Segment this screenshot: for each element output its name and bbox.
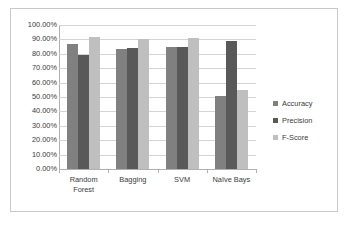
bar-accuracy [215,96,226,169]
legend-swatch-icon [273,101,278,106]
y-axis-tick-label: 10.00% [13,151,57,158]
bar-f-score [237,90,248,169]
y-axis-tick-label: 30.00% [13,122,57,129]
chart-legend: AccuracyPrecisionF-Score [273,95,337,146]
bar-f-score [138,39,149,169]
bar-precision [78,55,89,169]
bar-group [158,25,207,169]
bar-precision [127,48,138,169]
legend-label: Accuracy [282,100,312,107]
legend-label: F-Score [282,134,308,141]
y-axis-tick-labels: 100.00%90.00%80.00%70.00%60.00%50.00%40.… [11,25,57,169]
bar-precision [226,41,237,169]
x-axis-tick [108,169,109,173]
x-axis-category-label: Naïve Bays [199,175,264,185]
bar-group [108,25,157,169]
y-axis-tick-label: 60.00% [13,79,57,86]
y-axis-tick-label: 40.00% [13,108,57,115]
x-axis-tick [158,169,159,173]
y-axis-tick-label: 90.00% [13,36,57,43]
y-axis-tick-label: 50.00% [13,93,57,100]
legend-swatch-icon [273,118,278,123]
y-axis-tick-label: 0.00% [13,165,57,172]
x-axis-tick [256,169,257,173]
bar-accuracy [67,44,78,169]
y-axis-tick-label: 80.00% [13,50,57,57]
chart-container: 100.00%90.00%80.00%70.00%60.00%50.00%40.… [10,8,338,212]
bar-f-score [188,38,199,169]
y-axis-tick-label: 20.00% [13,136,57,143]
legend-item-accuracy: Accuracy [273,95,337,112]
bar-accuracy [166,47,177,169]
bar-f-score [89,37,100,169]
bar-accuracy [116,49,127,169]
legend-label: Precision [282,117,312,124]
legend-swatch-icon [273,135,278,140]
legend-item-f-score: F-Score [273,129,337,146]
plot-area [59,25,256,169]
legend-item-precision: Precision [273,112,337,129]
x-axis-tick [59,169,60,173]
bar-group [207,25,256,169]
x-axis-tick [207,169,208,173]
y-axis-tick-label: 70.00% [13,64,57,71]
y-axis-tick-label: 100.00% [13,21,57,28]
bar-precision [177,47,188,169]
bar-group [59,25,108,169]
